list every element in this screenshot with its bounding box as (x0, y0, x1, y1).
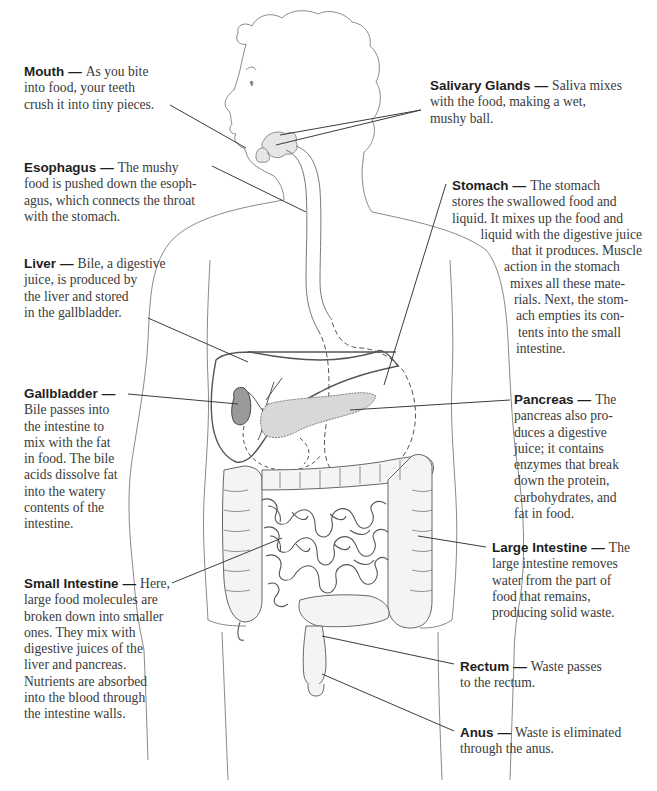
salivary-glands-shape (256, 132, 297, 162)
label-rectum: Rectum—Waste passes to the rectum. (460, 659, 602, 692)
label-liver: Liver—Bile, a digestive juice, is produc… (24, 256, 166, 321)
term-rectum: Rectum (460, 659, 509, 674)
mouth-leader-line (170, 105, 246, 148)
term-salivary-glands: Salivary Glands (430, 78, 530, 93)
label-small-intestine: Small Intestine—Here, large food molecul… (24, 576, 170, 723)
large-intestine-shape (223, 454, 434, 628)
term-stomach: Stomach (452, 178, 509, 193)
gallbladder-leader-line (128, 394, 238, 404)
small-intestine-shape (262, 499, 388, 606)
label-stomach: Stomach—The stomach stores the swallowed… (452, 178, 642, 357)
label-esophagus: Esophagus—The mushy food is pushed down … (24, 160, 197, 225)
label-pancreas: Pancreas—The pancreas also pro- duces a … (514, 392, 619, 522)
salivary-leader-line-1 (280, 110, 421, 135)
salivary-leader-line-2 (276, 110, 421, 145)
label-large-intestine: Large Intestine—The large intestine remo… (492, 540, 630, 621)
term-pancreas: Pancreas (514, 392, 574, 407)
term-liver: Liver (24, 256, 56, 271)
appendix-shape (238, 622, 244, 640)
term-gallbladder: Gallbladder (24, 386, 98, 401)
term-mouth: Mouth (24, 64, 64, 79)
rectum-leader-line (322, 636, 454, 664)
pancreas-leader-line (350, 400, 510, 410)
digestive-system-diagram: Mouth—As you bite into food, your teeth … (0, 0, 657, 791)
esophagus-shape (286, 146, 332, 330)
term-small-intestine: Small Intestine (24, 576, 119, 591)
term-large-intestine: Large Intestine (492, 540, 587, 555)
anus-leader-line (322, 674, 454, 731)
stomach-leader-line (384, 184, 446, 385)
liver-leader-line (148, 318, 248, 362)
pancreas-shape (261, 393, 376, 438)
term-anus: Anus (460, 725, 493, 740)
term-esophagus: Esophagus (24, 160, 96, 175)
label-mouth: Mouth—As you bite into food, your teeth … (24, 64, 154, 113)
label-salivary-glands: Salivary Glands—Saliva mixes with the fo… (430, 78, 622, 127)
label-anus: Anus—Waste is eliminated through the anu… (460, 725, 621, 758)
label-gallbladder: Gallbladder— Bile passes into the intest… (24, 386, 119, 533)
